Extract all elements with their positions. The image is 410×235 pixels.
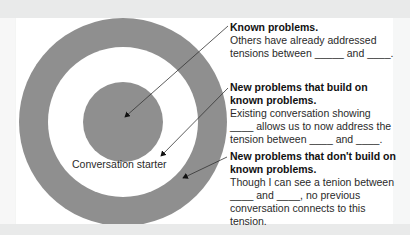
conversation-starter-label: Conversation starter — [72, 158, 167, 170]
annotation-known-problems: Known problems. Others have already addr… — [230, 21, 400, 60]
annotation-dont-build: New problems that don't build on known p… — [230, 150, 400, 228]
annotation-body: Though I can see a tenion between ____ a… — [230, 176, 394, 227]
annotation-body: Others have already addressed tensions b… — [230, 34, 393, 59]
annotation-title: New problems that don't build on known p… — [230, 150, 400, 176]
annotation-build-on-known: New problems that build on known problem… — [230, 81, 395, 146]
annotation-body: Existing conversation showing ____ allow… — [230, 107, 391, 145]
annotation-title: Known problems. — [230, 21, 400, 34]
annotation-title: New problems that build on known problem… — [230, 81, 395, 107]
